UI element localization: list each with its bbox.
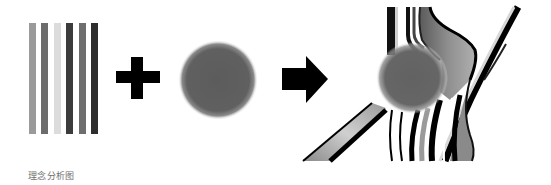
diagram-graphics [0,0,551,185]
blurred-circle [178,40,258,120]
plus-icon [116,57,160,99]
result-illustration [303,7,518,161]
concept-diagram: 理念分析图 [0,0,551,185]
diagram-caption: 理念分析图 [28,169,75,182]
arrow-right-icon [282,56,328,103]
